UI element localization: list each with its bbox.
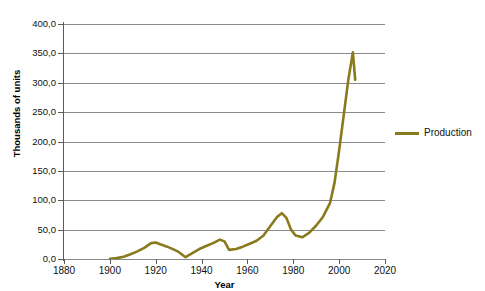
x-axis-tick-label: 2020 [363,266,407,276]
x-axis-tick [385,259,386,264]
x-axis-tick [202,259,203,264]
y-axis-tick [58,83,64,84]
line-chart: 0,050,0100,0150,0200,0250,0300,0350,0400… [0,0,485,291]
x-axis-tick [64,259,65,264]
y-axis-tick [58,53,64,54]
y-axis-tick [58,230,64,231]
x-axis-tick-label: 1920 [134,266,178,276]
x-axis-title: Year [64,279,385,290]
y-axis-tick [58,200,64,201]
y-axis-tick-labels: 0,050,0100,0150,0200,0250,0300,0350,0400… [0,0,56,291]
x-axis-tick [247,259,248,264]
x-axis-tick-label: 1900 [88,266,132,276]
y-axis-tick-label: 400,0 [4,19,56,29]
y-axis-tick [58,24,64,25]
legend-swatch-production [395,132,419,135]
y-axis-title: Thousands of units [11,54,22,174]
x-axis-tick [339,259,340,264]
x-axis-tick-label: 1980 [271,266,315,276]
x-axis-tick [110,259,111,264]
legend-label-production: Production [424,128,472,138]
x-axis-tick-label: 1940 [180,266,224,276]
x-axis-tick [293,259,294,264]
y-axis-tick-label: 0,0 [4,254,56,264]
series-production-line [64,24,385,259]
x-axis-tick-label: 1960 [225,266,269,276]
x-axis-tick [156,259,157,264]
legend: Production [395,128,472,138]
y-axis-tick [58,112,64,113]
y-axis-tick-label: 50,0 [4,225,56,235]
y-axis-tick [58,142,64,143]
x-axis-tick-label: 2000 [317,266,361,276]
x-axis-tick-label: 1880 [42,266,86,276]
y-axis-tick-label: 100,0 [4,195,56,205]
y-axis-tick [58,171,64,172]
x-axis-line [64,259,385,260]
plot-area [64,24,385,259]
